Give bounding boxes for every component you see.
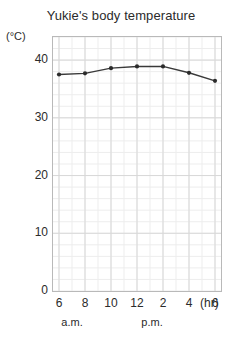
x-tick-0: 6 (56, 296, 63, 310)
y-tick-0: 0 (4, 283, 48, 297)
y-tick-40: 40 (4, 52, 48, 66)
x-tick-3: 12 (130, 296, 143, 310)
data-point (83, 71, 87, 75)
data-point (161, 64, 165, 68)
x-tick-5: 4 (186, 296, 193, 310)
y-tick-10: 10 (4, 225, 48, 239)
data-point (187, 71, 191, 75)
plot-area (52, 36, 222, 292)
data-point (135, 64, 139, 68)
y-axis-unit-label: (°C) (6, 30, 26, 42)
x-tick-2: 10 (104, 296, 117, 310)
y-tick-30: 30 (4, 110, 48, 124)
x-axis-unit-label: (hr) (200, 296, 219, 310)
temperature-line-chart: Yukie's body temperature (°C) 010203040 … (0, 0, 242, 347)
pm-label: p.m. (141, 316, 162, 328)
y-tick-20: 20 (4, 168, 48, 182)
x-tick-4: 2 (160, 296, 167, 310)
data-point (213, 79, 217, 83)
am-label: a.m. (61, 316, 82, 328)
data-point (57, 72, 61, 76)
x-tick-1: 8 (82, 296, 89, 310)
plot-canvas (53, 37, 221, 291)
chart-title: Yukie's body temperature (0, 8, 242, 23)
data-point (109, 66, 113, 70)
